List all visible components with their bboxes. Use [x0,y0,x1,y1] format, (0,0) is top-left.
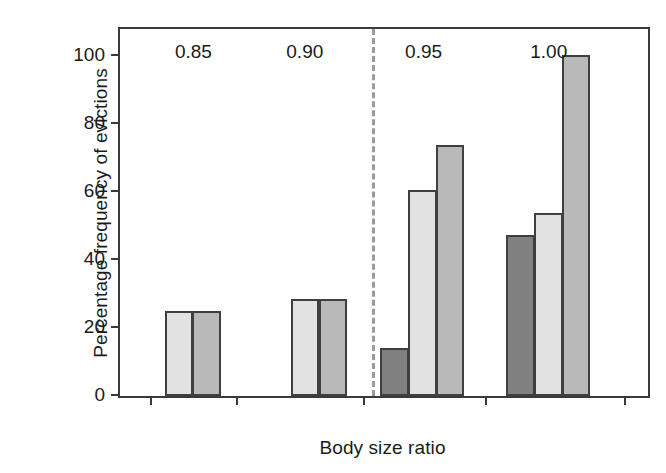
x-tick-3 [485,396,487,405]
x-tick-label-0.85: 0.85 [175,41,212,63]
bar-095-light [408,190,437,396]
x-tick-label-0.90: 0.90 [286,41,323,63]
y-tick-label-80: 80 [84,112,105,134]
bar-095-medium [436,145,465,396]
x-tick-label-0.95: 0.95 [405,41,442,63]
bar-100-dark [506,235,535,396]
vertical-dashed-divider [372,29,375,396]
bar-090-light [291,299,320,396]
y-tick-80: 80 [111,122,120,124]
y-tick-label-0: 0 [94,384,105,406]
x-tick-4 [624,396,626,405]
y-tick-label-20: 20 [84,316,105,338]
bar-085-medium [192,311,221,396]
bar-100-light [534,213,563,397]
bar-085-light [165,311,194,396]
x-tick-label-1.00: 1.00 [530,41,567,63]
y-tick-label-60: 60 [84,180,105,202]
x-tick-2 [363,396,365,405]
y-tick-20: 20 [111,326,120,328]
y-tick-40: 40 [111,258,120,260]
x-tick-1 [236,396,238,405]
chart-figure: Percentage frequency of evictions Body s… [0,0,666,473]
y-tick-label-40: 40 [84,248,105,270]
x-tick-0 [150,396,152,405]
bar-090-medium [319,299,348,396]
y-tick-100: 100 [111,54,120,56]
y-tick-60: 60 [111,190,120,192]
y-tick-0: 0 [111,394,120,396]
bar-095-dark [380,348,409,396]
y-axis-title: Percentage frequency of evictions [90,18,112,408]
plot-area: 020406080100 0.850.900.951.00 [118,27,650,398]
bar-100-medium [562,55,591,397]
x-axis-title: Body size ratio [110,437,655,459]
y-tick-label-100: 100 [73,44,105,66]
bars-layer [120,29,648,396]
